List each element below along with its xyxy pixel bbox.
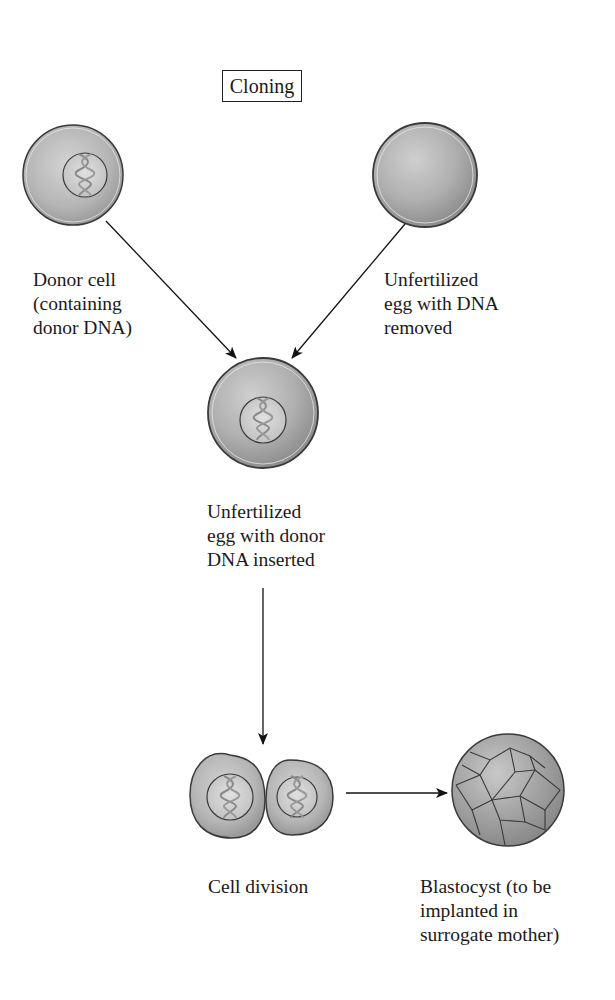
- donor-cell-icon: [23, 125, 123, 225]
- donor-cell-label: Donor cell (containing donor DNA): [33, 268, 132, 340]
- two-cell-embryo-icon: [190, 754, 333, 838]
- blastocyst-label: Blastocyst (to be implanted in surrogate…: [420, 875, 559, 947]
- enucleated-egg-label: Unfertilized egg with DNA removed: [384, 268, 499, 340]
- diagram-title: Cloning: [222, 70, 302, 102]
- enucleated-egg-icon: [373, 123, 477, 227]
- reconstructed-egg-label: Unfertilized egg with donor DNA inserted: [207, 500, 325, 572]
- reconstructed-egg-icon: [208, 358, 318, 468]
- blastocyst-icon: [452, 734, 564, 846]
- cell-division-label: Cell division: [208, 875, 308, 899]
